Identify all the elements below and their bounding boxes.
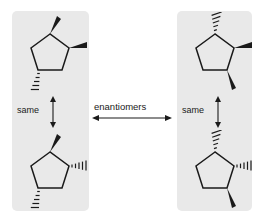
top-wedge-bond	[50, 16, 61, 34]
bottom-wedge-bond	[227, 70, 236, 90]
bottom-wedge-bond	[227, 188, 236, 208]
arrowhead-right	[165, 115, 172, 121]
cyclopentane-ring	[31, 34, 69, 70]
cyclopentane-ring	[196, 152, 234, 188]
arrowhead-left	[92, 115, 99, 121]
arrowhead-up	[50, 96, 56, 102]
arrowhead-up	[215, 96, 221, 102]
right-hash-bond	[72, 161, 86, 171]
arrow-enantiomers	[92, 111, 172, 125]
label-same-right: same	[182, 106, 204, 115]
stereochemistry-figure: same same enantiomers	[0, 0, 263, 224]
top-hash-bond	[212, 130, 222, 149]
right-wedge-bond	[69, 42, 87, 48]
label-same-left: same	[17, 106, 39, 115]
right-hash-bond	[237, 161, 251, 171]
molecule-top-left	[13, 12, 87, 92]
arrowhead-down	[215, 122, 221, 128]
molecule-bottom-left	[13, 130, 87, 210]
arrowhead-down	[50, 122, 56, 128]
top-hash-bond	[212, 12, 222, 31]
cyclopentane-ring	[196, 34, 234, 70]
arrow-same-right	[211, 96, 225, 128]
top-wedge-bond	[50, 134, 61, 152]
molecule-bottom-right	[178, 130, 252, 210]
arrow-same-left	[46, 96, 60, 128]
molecule-top-right	[178, 12, 252, 92]
cyclopentane-ring	[31, 152, 69, 188]
bottom-hash-bond	[31, 74, 40, 90]
bottom-hash-bond	[31, 192, 40, 208]
right-wedge-bond	[234, 42, 252, 48]
